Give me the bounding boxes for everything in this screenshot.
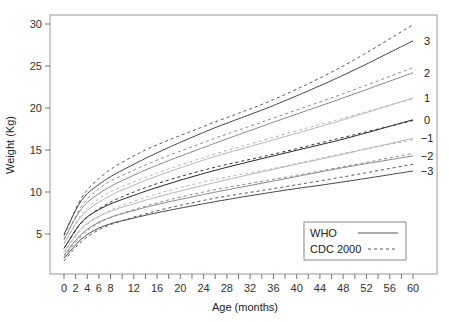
x-axis-title: Age (months) — [212, 301, 278, 313]
y-tick-label: 20 — [30, 102, 42, 114]
y-tick-label: 25 — [30, 60, 42, 72]
y-tick-label: 30 — [30, 18, 42, 30]
x-tick-label: 56 — [384, 282, 396, 294]
legend-label-cdc: CDC 2000 — [310, 243, 361, 255]
cdc-line-z3 — [64, 25, 413, 236]
z-score-label: 2 — [424, 67, 430, 79]
x-tick-label: 28 — [221, 282, 233, 294]
z-score-label: −1 — [421, 132, 434, 144]
x-tick-label: 60 — [407, 282, 419, 294]
x-tick-label: 44 — [314, 282, 326, 294]
x-tick-label: 20 — [174, 282, 186, 294]
x-tick-label: 24 — [197, 282, 209, 294]
x-tick-label: 52 — [360, 282, 372, 294]
x-tick-label: 4 — [84, 282, 90, 294]
z-score-labels: 3210−1−2−3 — [421, 35, 434, 177]
y-axis-title: Weight (Kg) — [4, 116, 16, 174]
y-tick-label: 15 — [30, 144, 42, 156]
y-tick-label: 5 — [36, 228, 42, 240]
x-tick-label: 6 — [96, 282, 102, 294]
who-line-z2 — [64, 73, 413, 239]
y-tick-label: 10 — [30, 186, 42, 198]
x-tick-label: 2 — [73, 282, 79, 294]
who-line-z1 — [64, 98, 413, 243]
x-tick-label: 48 — [337, 282, 349, 294]
y-axis: 51015202530 — [30, 18, 50, 240]
z-score-label: −3 — [421, 165, 434, 177]
z-score-label: 1 — [424, 92, 430, 104]
cdc-line-z2 — [64, 68, 413, 240]
who-line-z3 — [64, 41, 413, 234]
x-tick-label: 36 — [267, 282, 279, 294]
x-tick-label: 0 — [61, 282, 67, 294]
x-tick-label: 40 — [291, 282, 303, 294]
legend: WHO CDC 2000 — [304, 222, 406, 260]
z-score-label: 0 — [424, 114, 430, 126]
x-tick-label: 16 — [151, 282, 163, 294]
z-score-label: 3 — [424, 35, 430, 47]
legend-label-who: WHO — [310, 227, 337, 239]
x-axis: 0246812162024283236404448525660 — [61, 274, 419, 294]
growth-chart: 51015202530 0246812162024283236404448525… — [0, 0, 449, 322]
x-tick-label: 12 — [128, 282, 140, 294]
x-tick-label: 32 — [244, 282, 256, 294]
x-tick-label: 8 — [107, 282, 113, 294]
z-score-label: −2 — [421, 150, 434, 162]
